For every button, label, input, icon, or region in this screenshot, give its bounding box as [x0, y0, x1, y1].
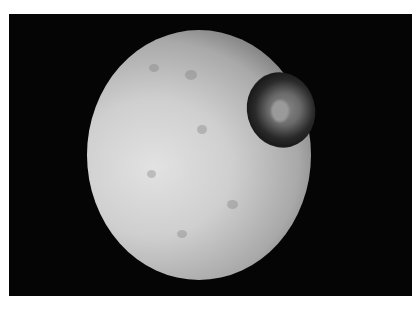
small-crater [197, 125, 207, 134]
small-crater [227, 200, 238, 209]
small-crater [147, 170, 156, 178]
moon-body [87, 30, 311, 280]
small-crater [177, 230, 187, 238]
small-crater [149, 64, 159, 72]
photo-frame [9, 14, 412, 296]
small-crater [185, 70, 197, 80]
crater-central-peak [271, 100, 289, 122]
